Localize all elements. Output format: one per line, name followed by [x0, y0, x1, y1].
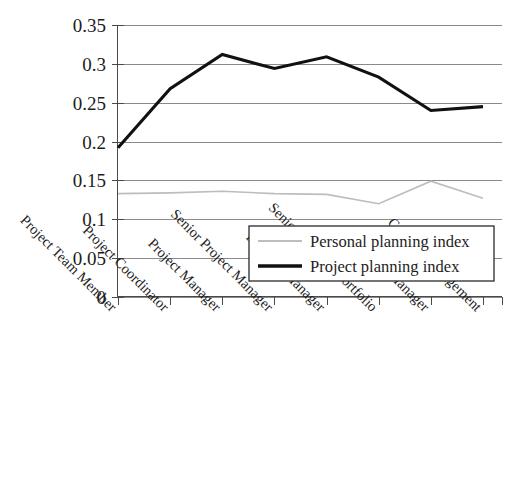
y-axis-tick-label: 0.3 — [82, 54, 106, 75]
line-chart: 0.350.30.250.20.150.10.050 Project Team … — [0, 0, 530, 486]
y-axis-tick-label: 0.2 — [82, 132, 106, 153]
chart-canvas: 0.350.30.250.20.150.10.050 Project Team … — [0, 0, 530, 486]
y-axis-tick-label: 0.15 — [73, 170, 106, 191]
y-axis-tick-label: 0.35 — [73, 15, 106, 36]
legend: Personal planning index Project planning… — [249, 226, 494, 281]
y-axis-tick-label: 0.25 — [73, 93, 106, 114]
legend-label-project-planning-index: Project planning index — [310, 257, 460, 276]
series-line-project-planning-index — [118, 55, 483, 148]
legend-label-personal-planning-index: Personal planning index — [310, 232, 470, 251]
series-line-personal-planning-index — [118, 181, 483, 204]
